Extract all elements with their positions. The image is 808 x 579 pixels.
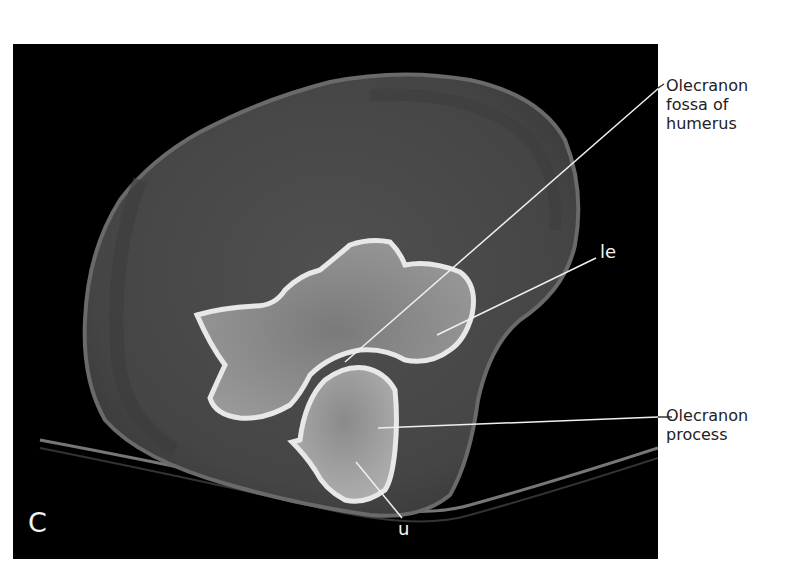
label-olecranon-fossa-line2: fossa of bbox=[666, 95, 748, 114]
panel-letter: C bbox=[28, 507, 47, 538]
label-olecranon-fossa: Olecranon fossa of humerus bbox=[666, 76, 748, 133]
label-olecranon-process-line2: process bbox=[666, 425, 748, 444]
label-olecranon-fossa-line1: Olecranon bbox=[666, 76, 748, 95]
label-le: le bbox=[600, 241, 616, 262]
label-u: u bbox=[398, 518, 409, 539]
ct-scan-image bbox=[13, 44, 658, 559]
ct-scan-panel: C bbox=[13, 44, 658, 559]
label-olecranon-fossa-line3: humerus bbox=[666, 114, 748, 133]
label-olecranon-process: Olecranon process bbox=[666, 406, 748, 444]
label-olecranon-process-line1: Olecranon bbox=[666, 406, 748, 425]
